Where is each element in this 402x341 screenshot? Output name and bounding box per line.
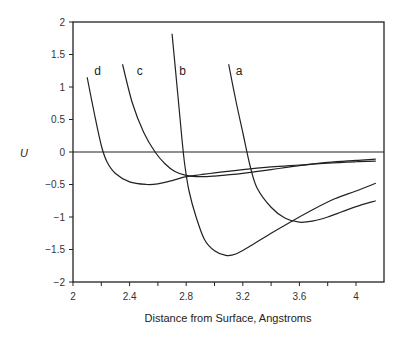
- y-tick-label: −1.5: [45, 244, 65, 255]
- curve-label-c: c: [137, 64, 143, 78]
- curve-labels: abcd: [94, 64, 243, 78]
- y-tick-label: −1: [54, 212, 66, 223]
- y-tick-label: −2: [54, 277, 66, 288]
- curve-label-b: b: [179, 64, 186, 78]
- x-tick-label: 2.4: [123, 291, 137, 302]
- potential-energy-chart: 21.510.50−0.5−1−1.5−2 22.42.83.23.64 abc…: [0, 0, 402, 341]
- x-axis-title: Distance from Surface, Angstroms: [145, 312, 312, 324]
- x-tick-label: 2.8: [179, 291, 193, 302]
- x-tick-label: 3.2: [236, 291, 250, 302]
- y-tick-label: 0.5: [51, 114, 65, 125]
- x-tick-label: 3.6: [292, 291, 306, 302]
- curve-a: [229, 64, 376, 222]
- curve-b: [172, 34, 376, 256]
- y-tick-label: 1.5: [51, 49, 65, 60]
- y-tick-label: 0: [59, 147, 65, 158]
- y-tick-label: 2: [59, 17, 65, 28]
- y-axis-ticks: 21.510.50−0.5−1−1.5−2: [45, 17, 73, 288]
- x-axis-ticks: 22.42.83.23.64: [70, 282, 359, 302]
- curve-d: [87, 77, 376, 184]
- curve-label-d: d: [94, 64, 101, 78]
- y-tick-label: −0.5: [45, 179, 65, 190]
- curves: [87, 34, 376, 256]
- x-tick-label: 2: [70, 291, 76, 302]
- curve-label-a: a: [236, 64, 243, 78]
- x-tick-label: 4: [353, 291, 359, 302]
- y-axis-title: U: [20, 147, 28, 159]
- y-tick-label: 1: [59, 82, 65, 93]
